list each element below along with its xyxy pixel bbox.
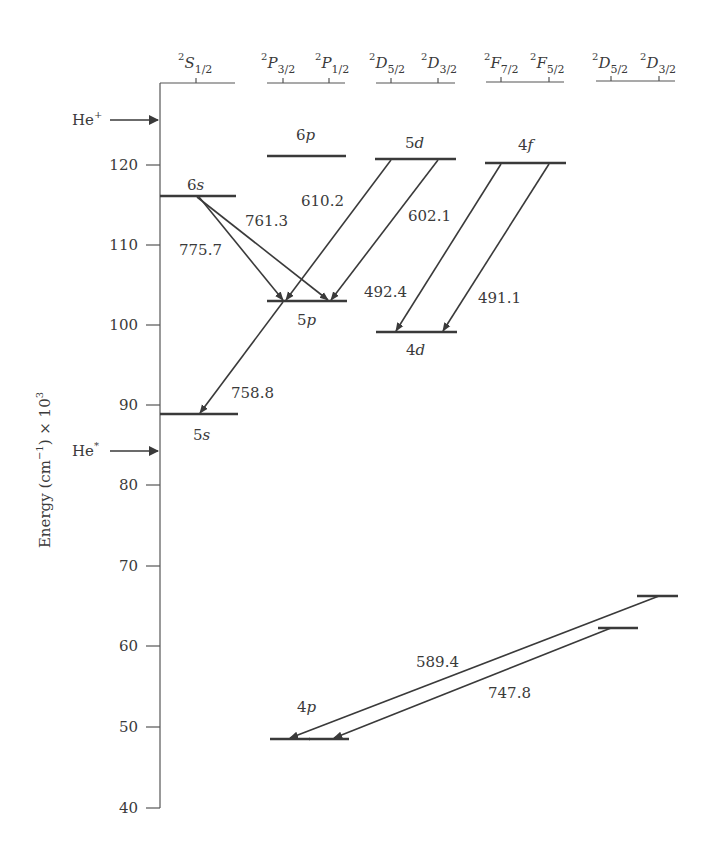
- label-6s: 6s: [187, 176, 205, 194]
- label-4p: 4p: [297, 698, 317, 716]
- transition-602.1: [331, 160, 438, 300]
- term-brackets: [160, 76, 675, 83]
- he-star-label: He*: [72, 440, 99, 460]
- term-2D5/2: 2D5/2: [369, 51, 405, 76]
- label-4d: 4d: [406, 341, 425, 359]
- y-tick-70: 70: [119, 557, 138, 575]
- term-2F7/2: 2F7/2: [484, 51, 519, 76]
- transition-747.8: [334, 628, 611, 738]
- transition-610.2: [286, 160, 391, 300]
- wavelength-602.1: 602.1: [408, 207, 451, 225]
- wavelength-610.2: 610.2: [301, 192, 344, 210]
- wavelength-761.3: 761.3: [245, 212, 288, 230]
- transition-589.4: [290, 596, 659, 738]
- wavelength-758.8: 758.8: [231, 384, 274, 402]
- term-2P1/2: 2P1/2: [315, 51, 349, 76]
- y-axis-label: Energy (cm−1) × 103: [34, 392, 54, 548]
- label-4f: 4f: [518, 136, 536, 154]
- term-2S1/2: 2S1/2: [178, 51, 212, 76]
- y-tick-110: 110: [109, 236, 138, 254]
- term-2F5/2: 2F5/2: [530, 51, 565, 76]
- label-5p: 5p: [297, 311, 317, 329]
- he-plus-label: He+: [72, 109, 102, 129]
- y-tick-100: 100: [109, 316, 138, 334]
- term-2P3/2: 2P3/2: [261, 51, 295, 76]
- wavelength-747.8: 747.8: [488, 684, 531, 702]
- energy-level-diagram: 2S1/2 2P3/2 2P1/2 2D5/2 2D3/2 2F7/2 2F5/…: [0, 0, 716, 841]
- y-tick-40: 40: [119, 799, 138, 817]
- wavelength-775.7: 775.7: [179, 241, 222, 259]
- term-2D3/2: 2D3/2: [421, 51, 457, 76]
- y-tick-50: 50: [119, 718, 138, 736]
- level-labels: 6s 6p 5d 4f 5p 4d 5s 4p: [187, 126, 536, 716]
- transitions: [197, 160, 659, 738]
- y-tick-120: 120: [109, 156, 138, 174]
- y-tick-90: 90: [119, 396, 138, 414]
- label-6p: 6p: [296, 126, 316, 144]
- wavelength-589.4: 589.4: [416, 653, 459, 671]
- y-tick-60: 60: [119, 637, 138, 655]
- label-5s: 5s: [193, 426, 211, 444]
- y-tick-80: 80: [119, 476, 138, 494]
- wavelength-491.1: 491.1: [478, 289, 521, 307]
- term-2D3/2-second: 2D3/2: [640, 51, 676, 76]
- wavelength-492.4: 492.4: [364, 283, 407, 301]
- term-2D5/2-second: 2D5/2: [592, 51, 628, 76]
- term-headers: 2S1/2 2P3/2 2P1/2 2D5/2 2D3/2 2F7/2 2F5/…: [178, 51, 676, 76]
- label-5d: 5d: [405, 134, 424, 152]
